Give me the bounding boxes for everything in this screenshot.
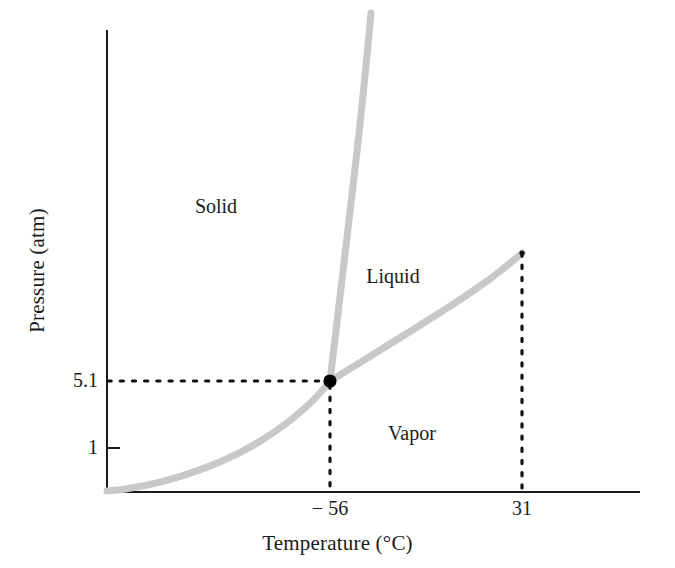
x-axis-title: Temperature (°C)	[0, 531, 675, 556]
y-tick-label-5.1: 5.1	[36, 369, 98, 392]
fusion-curve	[330, 13, 371, 381]
y-tick-label-1: 1	[36, 436, 98, 459]
y-axis-title: Pressure (atm)	[25, 156, 50, 386]
critical-point-marker	[519, 250, 524, 255]
x-tick-label-minus-56: − 56	[280, 497, 380, 520]
phase-diagram-plot	[0, 0, 675, 568]
x-tick-label-31: 31	[477, 497, 567, 520]
triple-point-marker	[323, 374, 336, 387]
phase-diagram-figure: Temperature (°C) Pressure (atm) 5.1 1 − …	[0, 0, 675, 568]
sublimation-curve	[107, 381, 330, 491]
region-label-vapor: Vapor	[366, 422, 458, 445]
region-label-liquid: Liquid	[347, 265, 439, 288]
region-label-solid: Solid	[170, 195, 262, 218]
